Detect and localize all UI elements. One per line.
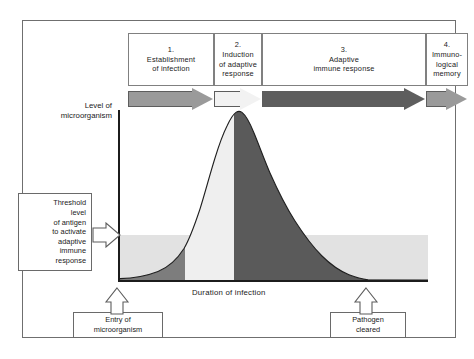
curve-svg [120,110,428,280]
threshold-line-1: Threshold [52,198,89,208]
phase-4-line3: memory [432,69,462,79]
phase-3-line1: Adaptive [314,55,375,65]
phase-arrow-1 [128,88,214,110]
x-axis-label: Duration of infection [192,288,266,297]
phase-box-row: 1. Establishment of infection 2. Inducti… [128,33,468,86]
threshold-line-3: of antigen [52,218,89,228]
x-axis-line [118,280,428,282]
region-pre-adaptive [120,110,185,280]
threshold-pointer-arrow-icon [92,222,122,248]
region-adaptive [234,110,428,280]
phase-box-2: 2. Induction of adaptive response [214,33,262,86]
phase-1-line1: Establishment [147,55,195,65]
cleared-callout-box: Pathogen cleared [330,312,406,338]
phase-2-line3: response [219,69,257,79]
phase-box-3: 3. Adaptive immune response [262,33,426,86]
threshold-line-4: to activate [52,227,89,237]
y-axis-label-line1: Level of [85,101,112,110]
phase-3-line2: immune response [314,64,375,74]
entry-line-1: Entry of [105,315,130,324]
phase-2-line1: Induction [219,50,257,60]
cleared-line-2: cleared [356,325,380,334]
phase-4-line1: Immuno- [432,50,462,60]
phase-arrow-3 [262,88,426,110]
entry-callout-box: Entry of microorganism [73,312,163,338]
phase-4-number: 4. [432,40,462,50]
threshold-line-5: adaptive [52,237,89,247]
entry-pointer-arrow-icon [104,287,130,315]
curve-area [120,110,428,280]
phase-3-number: 3. [314,45,375,55]
threshold-line-2: level [52,208,89,218]
cleared-line-1: Pathogen [352,315,384,324]
phase-box-1: 1. Establishment of infection [128,33,214,86]
phase-box-4: 4. Immuno- logical memory [426,33,468,86]
phase-arrow-2 [214,88,262,110]
phase-4-line2: logical [432,60,462,70]
phase-2-line2: of adaptive [219,60,257,70]
threshold-callout-box: Threshold level of antigen to activate a… [18,193,92,271]
region-induction [185,110,234,280]
cleared-pointer-arrow-icon [353,287,379,315]
phase-1-number: 1. [147,45,195,55]
phase-arrow-4 [426,88,468,110]
diagram-root: 1. Establishment of infection 2. Inducti… [0,0,474,359]
y-axis-label: Level of microorganism [38,101,112,121]
phase-2-number: 2. [219,40,257,50]
curve-fill-regions [120,110,428,280]
infection-curve-plot [118,110,428,282]
phase-1-line2: of infection [147,64,195,74]
threshold-line-6: immune [52,246,89,256]
y-axis-label-line2: microorganism [61,111,112,120]
threshold-line-7: response [52,256,89,266]
y-axis-line [118,110,120,282]
entry-line-2: microorganism [94,325,142,334]
